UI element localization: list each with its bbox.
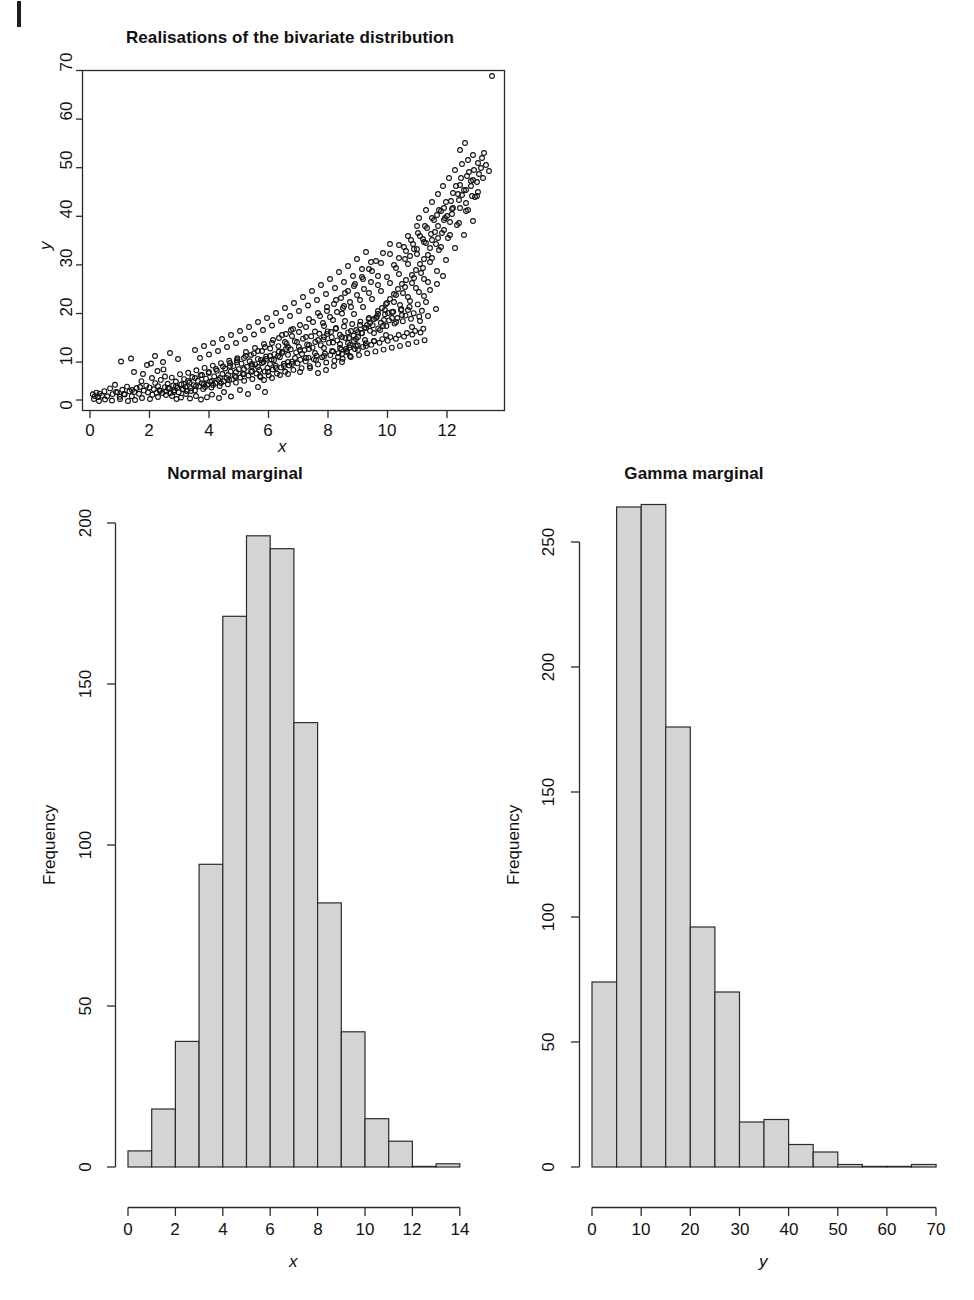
normal-xtick-10: 10 [349,1220,381,1240]
bar-55-60 [862,1166,887,1167]
bar-7-8 [294,723,318,1167]
normal-hist-panel: Normal marginal 0 50 100 150 200 Frequen… [0,455,490,1300]
normal-hist-canvas [0,455,490,1300]
scatter-xtick-10: 10 [371,421,403,441]
bar-35-40 [764,1120,789,1168]
scatter-xtick-2: 2 [133,421,165,441]
bar-50-55 [838,1165,863,1168]
gamma-xtick-10: 10 [625,1220,657,1240]
bar-3-4 [199,864,223,1167]
normal-xtick-0: 0 [112,1220,144,1240]
normal-xtick-2: 2 [159,1220,191,1240]
scatter-xlabel: x [278,437,287,457]
bar-10-15 [641,505,666,1168]
scatter-canvas [0,0,560,455]
scatter-xtick-4: 4 [193,421,225,441]
scatter-xtick-0: 0 [74,421,106,441]
bar-25-30 [715,992,740,1167]
bar-15-20 [666,727,691,1167]
normal-xtick-12: 12 [396,1220,428,1240]
normal-xtick-14: 14 [444,1220,476,1240]
bar-12-13 [412,1166,436,1167]
bar-40-45 [789,1145,814,1168]
bar-0-5 [592,982,617,1167]
bar-8-9 [318,903,342,1167]
normal-x-ticks [128,1208,460,1217]
bar-10-11 [365,1119,389,1167]
scatter-xtick-8: 8 [312,421,344,441]
gamma-x-ticks [592,1208,936,1217]
scatter-x-ticks [90,411,447,418]
normal-xtick-6: 6 [254,1220,286,1240]
bar-20-25 [690,927,715,1167]
bar-45-50 [813,1152,838,1167]
scatter-xtick-12: 12 [431,421,463,441]
bar-5-6 [247,536,271,1167]
bar-2-3 [175,1041,199,1167]
gamma-xtick-60: 60 [871,1220,903,1240]
bar-6-7 [270,549,294,1167]
scatter-panel: Realisations of the bivariate distributi… [0,0,560,455]
bar-30-35 [740,1122,765,1167]
gamma-hist-bars [592,505,936,1168]
figure-page: Realisations of the bivariate distributi… [0,0,974,1300]
gamma-xtick-0: 0 [576,1220,608,1240]
bar-9-10 [341,1032,365,1167]
gamma-hist-canvas [484,455,974,1300]
gamma-xtick-70: 70 [920,1220,952,1240]
normal-xtick-8: 8 [302,1220,334,1240]
bar-4-5 [223,616,247,1167]
normal-xtick-4: 4 [207,1220,239,1240]
gamma-y-ticks [571,542,580,1167]
bar-13-14 [436,1164,460,1167]
scatter-points [90,74,494,404]
gamma-xtick-50: 50 [822,1220,854,1240]
normal-y-ticks [107,523,116,1167]
bar-0-1 [128,1151,152,1167]
gamma-hist-panel: Gamma marginal 0 50 100 150 200 250 Freq… [484,455,974,1300]
normal-hist-bars [128,536,460,1167]
bar-60-65 [887,1166,912,1167]
gamma-xlabel: y [759,1252,768,1272]
gamma-xtick-30: 30 [724,1220,756,1240]
gamma-xtick-20: 20 [674,1220,706,1240]
gamma-xtick-40: 40 [773,1220,805,1240]
bar-5-10 [617,507,642,1167]
bar-1-2 [152,1109,176,1167]
bar-65-70 [912,1165,937,1168]
scatter-y-ticks [76,71,83,401]
normal-xlabel: x [289,1252,298,1272]
bar-11-12 [389,1141,413,1167]
